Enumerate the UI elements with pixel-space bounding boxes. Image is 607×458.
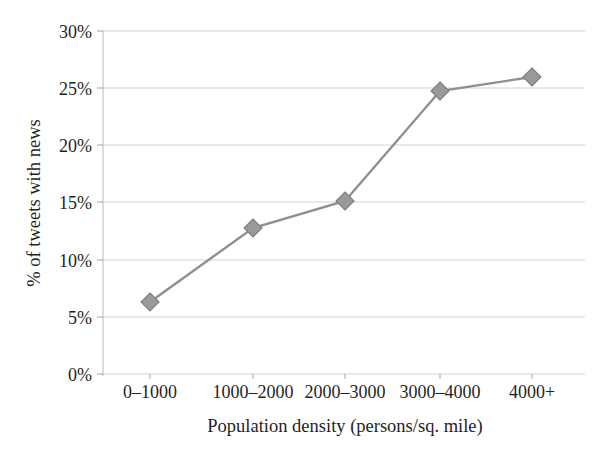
data-point-4 bbox=[523, 68, 541, 86]
x-tick-labels: 0–1000 1000–2000 2000–3000 3000–4000 400… bbox=[123, 382, 555, 402]
y-tick-label-25: 25% bbox=[59, 79, 92, 99]
data-point-1 bbox=[244, 219, 262, 237]
x-tick-label-2: 2000–3000 bbox=[305, 382, 386, 402]
y-axis-title: % of tweets with news bbox=[24, 119, 44, 287]
x-axis-title: Population density (persons/sq. mile) bbox=[207, 416, 482, 437]
data-point-0 bbox=[141, 293, 159, 311]
y-tick-label-30: 30% bbox=[59, 22, 92, 42]
x-tick-label-1: 1000–2000 bbox=[213, 382, 294, 402]
y-tick-label-20: 20% bbox=[59, 136, 92, 156]
x-tick-label-3: 3000–4000 bbox=[400, 382, 481, 402]
y-tick-labels: 30% 25% 20% 15% 10% 5% 0% bbox=[59, 22, 92, 385]
y-tick-label-10: 10% bbox=[59, 251, 92, 271]
y-tick-label-15: 15% bbox=[59, 193, 92, 213]
data-point-markers bbox=[141, 68, 541, 311]
chart-figure: 30% 25% 20% 15% 10% 5% 0% % of tweets wi… bbox=[0, 0, 607, 458]
y-tick-label-0: 0% bbox=[68, 365, 92, 385]
x-tick-marks bbox=[150, 374, 532, 379]
x-tick-label-0: 0–1000 bbox=[123, 382, 177, 402]
y-tick-label-5: 5% bbox=[68, 308, 92, 328]
line-chart: 30% 25% 20% 15% 10% 5% 0% % of tweets wi… bbox=[0, 0, 607, 458]
x-tick-label-4: 4000+ bbox=[509, 382, 555, 402]
series-line-tweets-with-news bbox=[150, 77, 532, 302]
y-tick-marks bbox=[97, 31, 103, 374]
